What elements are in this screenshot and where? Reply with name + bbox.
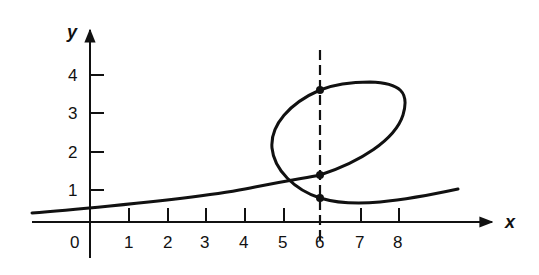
x-tick-label-8: 8 bbox=[393, 233, 402, 252]
y-tick-label-2: 2 bbox=[68, 143, 77, 162]
y-tick-labels: 1 2 3 4 bbox=[68, 66, 77, 200]
intersection-point-lower bbox=[316, 194, 324, 202]
looping-curve bbox=[32, 82, 458, 213]
y-axis-label: y bbox=[66, 22, 78, 42]
x-tick-label-1: 1 bbox=[124, 233, 133, 252]
y-ticks bbox=[90, 75, 104, 190]
x-tick-label-5: 5 bbox=[278, 233, 287, 252]
intersection-point-middle bbox=[316, 171, 324, 179]
x-tick-label-0: 0 bbox=[70, 233, 79, 252]
x-tick-label-4: 4 bbox=[239, 233, 248, 252]
x-tick-label-3: 3 bbox=[200, 233, 209, 252]
y-tick-label-3: 3 bbox=[68, 104, 77, 123]
x-ticks bbox=[129, 208, 399, 222]
intersection-point-upper bbox=[316, 86, 324, 94]
x-tick-labels: 0 1 2 3 4 5 6 7 8 bbox=[70, 233, 402, 252]
y-tick-label-1: 1 bbox=[68, 181, 77, 200]
curve-diagram: 0 1 2 3 4 5 6 7 8 1 2 3 4 y x bbox=[0, 0, 539, 275]
x-tick-label-2: 2 bbox=[163, 233, 172, 252]
x-tick-label-7: 7 bbox=[355, 233, 364, 252]
y-tick-label-4: 4 bbox=[68, 66, 77, 85]
x-axis-label: x bbox=[504, 212, 516, 232]
